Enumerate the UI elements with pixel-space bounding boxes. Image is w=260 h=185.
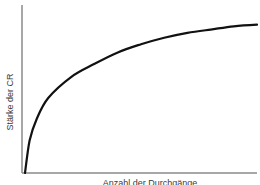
acquisition-curve xyxy=(25,25,257,173)
x-axis-label: Anzahl der Durchgänge xyxy=(103,178,198,185)
learning-curve-chart: Stärke der CR Anzahl der Durchgänge xyxy=(0,0,260,185)
chart-plot-area xyxy=(0,0,260,185)
y-axis-label: Stärke der CR xyxy=(5,73,15,130)
